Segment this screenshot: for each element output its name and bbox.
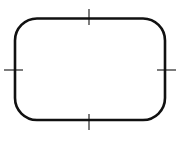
rounded-rectangle-outline bbox=[15, 19, 165, 121]
rounded-rectangle-diagram bbox=[0, 0, 181, 148]
